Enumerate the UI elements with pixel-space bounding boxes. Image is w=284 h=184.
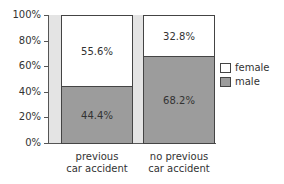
x-label-previous: previous car accident (52, 151, 142, 175)
legend-item-male: male (220, 76, 260, 87)
legend-label: female (235, 62, 269, 73)
y-tick-label: 80% (0, 36, 41, 46)
y-tick-label: 60% (0, 61, 41, 71)
y-axis (48, 15, 49, 144)
x-label-line: car accident (134, 163, 224, 175)
value-label: 32.8% (163, 31, 195, 42)
value-label: 68.2% (163, 95, 195, 106)
x-label-line: no previous (134, 151, 224, 163)
bar-previous-accident: 55.6% 44.4% (61, 15, 133, 144)
y-tick-label: 100% (0, 10, 41, 20)
legend-item-female: female (220, 62, 269, 73)
x-label-line: car accident (52, 163, 142, 175)
y-tick (44, 143, 49, 144)
legend-label: male (235, 76, 260, 87)
legend-swatch-female (220, 63, 231, 73)
segment-female: 55.6% (62, 16, 132, 86)
segment-male: 68.2% (144, 56, 214, 143)
bar-no-previous-accident: 32.8% 68.2% (143, 15, 215, 144)
y-tick-label: 0% (0, 138, 41, 148)
y-tick-label: 40% (0, 87, 41, 97)
value-label: 44.4% (81, 110, 113, 121)
segment-female: 32.8% (144, 16, 214, 56)
y-tick (44, 117, 49, 118)
x-label-line: previous (52, 151, 142, 163)
segment-male: 44.4% (62, 86, 132, 143)
y-tick (44, 92, 49, 93)
x-label-no-previous: no previous car accident (134, 151, 224, 175)
y-tick (44, 41, 49, 42)
y-tick (44, 66, 49, 67)
legend-swatch-male (220, 77, 231, 87)
y-tick-label: 20% (0, 112, 41, 122)
value-label: 55.6% (81, 46, 113, 57)
y-tick (44, 15, 49, 16)
